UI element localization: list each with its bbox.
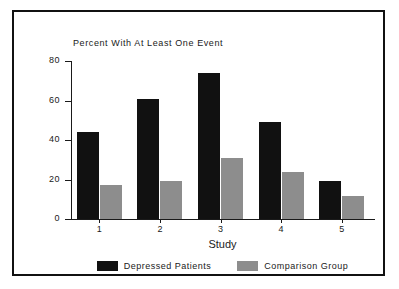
y-axis-tick-label: 60 [14,95,60,105]
chart-legend: Depressed PatientsComparison Group [71,261,374,271]
x-axis-tick [342,219,343,223]
legend-label: Depressed Patients [124,261,212,271]
legend-item: Comparison Group [237,261,348,271]
bar [259,122,281,219]
legend-swatch [237,261,258,271]
x-axis-tick [99,219,100,223]
bar [137,99,159,219]
y-axis-tick-label: 20 [14,174,60,184]
y-axis-tick-label: 80 [14,55,60,65]
x-axis-tick-label: 1 [79,224,119,234]
bar [319,181,341,219]
legend-label: Comparison Group [264,261,348,271]
bar [100,185,122,219]
x-axis-tick-label: 4 [261,224,301,234]
bar [77,132,99,219]
chart-title: Percent With At Least One Event [73,38,223,48]
x-axis-label: Study [71,238,374,250]
x-axis-tick-label: 2 [140,224,180,234]
x-axis-line [71,219,375,220]
figure-frame: Percent With At Least One Event 02040608… [12,10,385,276]
x-axis-tick-label: 5 [322,224,362,234]
bar [221,158,243,219]
legend-swatch [97,261,118,271]
x-axis-tick [160,219,161,223]
legend-item: Depressed Patients [97,261,212,271]
bars-layer [71,61,374,219]
y-axis-tick-label: 40 [14,134,60,144]
x-axis-tick [281,219,282,223]
figure: Percent With At Least One Event 02040608… [0,0,399,289]
y-axis-tick-label: 0 [14,213,60,223]
bar [198,73,220,219]
bar [342,196,364,219]
x-axis-tick-label: 3 [201,224,241,234]
x-axis-tick [221,219,222,223]
bar [282,172,304,219]
bar [160,181,182,220]
